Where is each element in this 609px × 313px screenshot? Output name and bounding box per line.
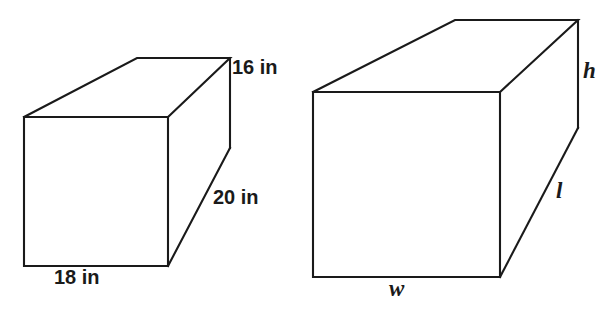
variable-prism-length-label: l [556, 178, 562, 204]
figure-canvas: 16 in 20 in 18 in h l w [0, 0, 609, 313]
labeled-prism-shape [24, 58, 230, 266]
labeled-prism-front-face [24, 117, 168, 266]
variable-prism-width-label: w [389, 276, 404, 302]
variable-prism-front-face [313, 92, 500, 277]
labeled-prism-width-label: 18 in [54, 266, 100, 289]
labeled-prism-height-label: 16 in [232, 56, 278, 79]
labeled-prism-depth-label: 20 in [213, 186, 259, 209]
variable-prism-shape [313, 20, 578, 277]
variable-prism-height-label: h [583, 58, 596, 84]
